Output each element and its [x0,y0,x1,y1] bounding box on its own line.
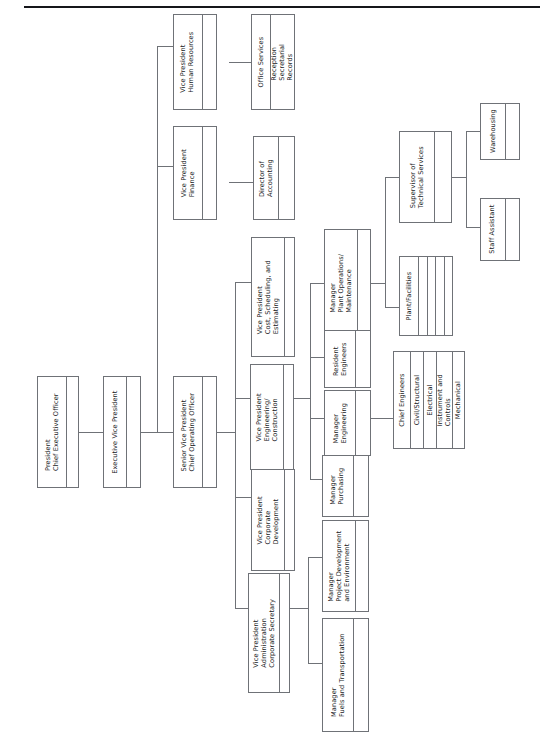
node-suptech-blank-cell [434,132,451,222]
node-director-accounting[interactable]: Director ofAccounting [253,136,295,220]
connector-vpadminspine-fuels [308,663,322,664]
node-mgrpurch-label: ManagerPurchasing [330,467,346,504]
node-president[interactable]: PresidentChief Executive Officer [37,376,79,488]
node-diraccounting-label: Director ofAccounting [258,159,274,197]
node-president-blank-cell [66,377,78,487]
node-manager-plant-operations[interactable]: ManagerPlant Operations/Maintenance [324,229,371,337]
node-mgrengr-text-cell: ManagerEngineering [325,391,355,455]
node-plantfacilities-slot-4 [444,257,453,335]
node-staffassistant-text-cell: Staff Assistant [481,199,505,260]
node-vpadmin-text-cell: Vice PresidentAdministrationCorporate Se… [249,574,279,692]
node-manager-fuels-transportation[interactable]: ManagerFuels and Transportation [322,618,369,732]
node-civil-structural[interactable]: Civil/Structural [410,352,423,448]
connector-mgrengr-chiefengr [371,418,393,419]
node-mgrfuels-label: ManagerFuels and Transportation [330,633,346,717]
node-vpcorpdev-text-cell: Vice PresidentCorporateDevelopment [252,470,284,570]
node-plantfacilities-text-cell: Plant/Facilities [400,257,418,335]
node-diraccounting-text-cell: Director ofAccounting [254,137,278,219]
org-chart-canvas: PresidentChief Executive Officer Executi… [0,0,541,744]
node-warehousing[interactable]: Warehousing [480,103,520,160]
node-manager-engineering[interactable]: ManagerEngineering [324,390,371,456]
spine-vpengr-children [310,283,311,479]
connector-vpadmin-out [290,608,308,609]
connector-svp-children [217,432,235,433]
node-office-services-list-label: ReceptionSecretarialRecords [270,44,294,81]
node-warehousing-text-cell: Warehousing [481,104,505,159]
connector-vphr-officeservices [229,62,251,63]
node-residentengr-text-cell: ResidentEngineers [325,331,355,387]
connector-vpengrspine-mgrplant [310,283,324,284]
connector-svpspine-vpengr [235,398,251,399]
spine-evp [157,46,158,433]
node-vphr-blank-cell [202,15,216,109]
node-vpengr-label: Vice PresidentEngineering/Construction [255,393,280,441]
node-vpcost-label: Vice PresidentCost, Scheduling, andEstim… [256,260,281,334]
spine-mgrplant-children [385,177,386,307]
node-vpadmin-blank-cell [279,574,289,692]
node-plant-facilities[interactable]: Plant/Facilities [399,256,453,336]
node-mgrengr-blank-cell [355,391,370,455]
node-plantfacilities-slot-3 [435,257,444,335]
node-vp-corporate-development[interactable]: Vice PresidentCorporateDevelopment [251,469,295,571]
node-vpfinance-blank-cell [202,127,216,219]
node-vpadmin-label: Vice PresidentAdministrationCorporate Se… [252,599,277,668]
node-executive-vice-president[interactable]: Executive Vice President [103,376,141,488]
node-mgrprojdev-label: ManagerProject Developmentand Environmen… [327,531,352,602]
node-instrument-controls-label: Instrument andControls [436,374,452,426]
node-manager-project-development[interactable]: ManagerProject Developmentand Environmen… [322,520,369,612]
node-vpcost-text-cell: Vice PresidentCost, Scheduling, andEstim… [252,238,284,356]
node-mgrplant-label: ManagerPlant Operations/Maintenance [329,254,354,313]
node-evp-text-cell: Executive Vice President [104,377,126,487]
node-evp-blank-cell [126,377,140,487]
connector-suptech-out [452,177,466,178]
connector-suptechspine-warehousing [466,131,480,132]
node-senior-vice-president[interactable]: Senior Vice PresidentChief Operating Off… [173,376,217,488]
node-plantfacilities-slot-1 [418,257,427,335]
node-office-services[interactable]: Office Services ReceptionSecretarialReco… [251,14,295,110]
node-vpcorpdev-blank-cell [284,470,294,570]
node-residentengr-blank-cell [355,331,370,387]
node-vpfinance-text-cell: Vice PresidentFinance [174,127,202,219]
connector-vpengr-out [294,398,310,399]
node-electrical[interactable]: Electrical [423,352,436,448]
node-mgrprojdev-text-cell: ManagerProject Developmentand Environmen… [323,521,355,611]
node-electrical-label: Electrical [426,384,434,415]
connector-vpadminspine-projdev [308,557,322,558]
node-vp-human-resources[interactable]: Vice PresidentHuman Resources [173,14,217,110]
node-president-text-cell: PresidentChief Executive Officer [38,377,66,487]
node-supervisor-technical-services[interactable]: Supervisor ofTechnical Services [399,131,452,223]
node-mgrfuels-blank-cell [353,619,368,731]
node-vp-engineering-construction[interactable]: Vice PresidentEngineering/Construction [250,364,294,470]
node-chief-engineers[interactable]: Chief Engineers Civil/Structural Electri… [393,351,465,449]
connector-mgrplant-out [371,283,385,284]
connector-svpspine-vpcorpdev [235,497,251,498]
node-vp-cost-scheduling[interactable]: Vice PresidentCost, Scheduling, andEstim… [251,237,295,357]
node-suptech-text-cell: Supervisor ofTechnical Services [400,132,434,222]
node-vp-administration[interactable]: Vice PresidentAdministrationCorporate Se… [248,573,290,693]
node-mgrpurch-text-cell: ManagerPurchasing [323,456,353,516]
node-instrument-controls[interactable]: Instrument andControls [436,352,452,448]
node-suptech-label: Supervisor ofTechnical Services [409,146,425,208]
node-vphr-text-cell: Vice PresidentHuman Resources [174,15,202,109]
spine-svp-children [235,282,236,608]
node-staffassistant-blank-cell [505,199,519,260]
node-vpengr-blank-cell [283,365,293,469]
node-residentengr-label: ResidentEngineers [332,342,348,376]
node-staff-assistant[interactable]: Staff Assistant [480,198,520,261]
node-mgrengr-label: ManagerEngineering [332,403,348,444]
spine-suptech-children [466,131,467,227]
node-resident-engineers[interactable]: ResidentEngineers [324,330,371,388]
connector-mgrplantspine-suptech [385,177,399,178]
node-manager-purchasing[interactable]: ManagerPurchasing [322,455,369,517]
node-chiefengineers-text-cell: Chief Engineers [394,352,410,448]
node-office-services-text-cell: Office Services [252,15,270,109]
node-office-services-label: Office Services [257,37,265,88]
connector-vpengrspine-mgrengr [310,418,324,419]
node-office-services-list-cell: ReceptionSecretarialRecords [270,15,294,109]
node-mgrprojdev-blank-cell [355,521,368,611]
node-vp-finance[interactable]: Vice PresidentFinance [173,126,217,220]
node-mechanical[interactable]: Mechanical [452,352,464,448]
node-diraccounting-blank-cell [278,137,294,219]
node-vpcorpdev-label: Vice PresidentCorporateDevelopment [256,496,281,544]
node-vpcost-blank-cell [284,238,294,356]
